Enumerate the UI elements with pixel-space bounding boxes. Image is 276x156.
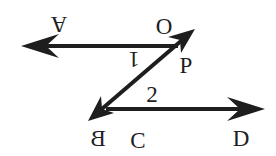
angle-label-2: 2 (146, 82, 158, 107)
label-D: D (233, 126, 250, 151)
label-P: P (180, 53, 193, 78)
angle-label-1: 1 (128, 47, 140, 72)
ray-CD (106, 97, 265, 121)
geometry-diagram: A O 1 P 2 B C D (0, 0, 276, 156)
label-B: B (90, 126, 105, 151)
label-A: A (50, 12, 67, 37)
ray-PA (21, 34, 178, 58)
label-C: C (130, 128, 145, 153)
label-O: O (156, 14, 173, 39)
